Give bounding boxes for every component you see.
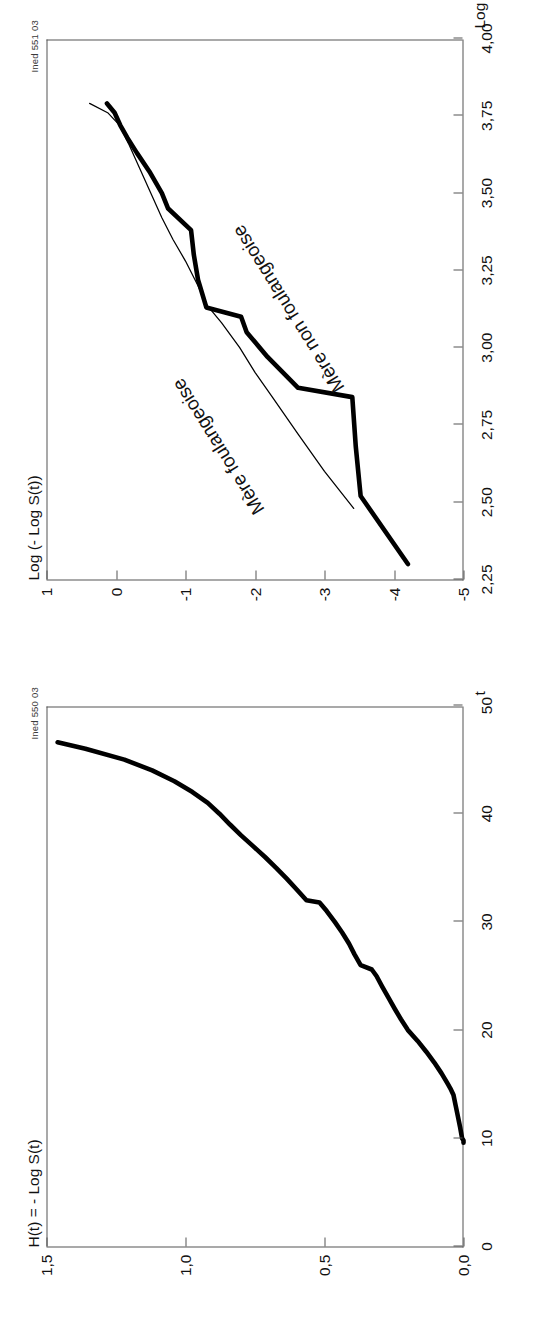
x-tick: [453, 812, 462, 813]
y-tick-label: -1: [176, 587, 194, 625]
panel-a-x-axis-title: t: [470, 691, 488, 695]
x-tick: [453, 114, 462, 115]
x-tick: [453, 346, 462, 347]
y-tick: [463, 570, 464, 579]
y-tick: [185, 570, 186, 579]
y-tick-label: 0: [107, 587, 125, 625]
panel-a-source-note: Ined 550 03: [28, 687, 39, 739]
y-tick: [46, 1237, 47, 1246]
y-tick: [46, 570, 47, 579]
y-tick: [185, 1237, 186, 1246]
x-tick-label: 2,25: [477, 564, 495, 594]
y-tick-label: -2: [246, 587, 264, 625]
x-tick-label: 3,75: [477, 100, 495, 130]
series-thick: [57, 742, 463, 1142]
y-tick-label: 1,0: [176, 1254, 194, 1292]
y-tick-label: -4: [385, 587, 403, 625]
panel-a-y-axis-title: H(t) = - Log S(t): [24, 1139, 42, 1247]
x-tick-label: 40: [477, 805, 495, 822]
x-tick-label: 0: [477, 1242, 495, 1251]
x-tick-label: 50: [477, 696, 495, 713]
y-tick: [324, 1237, 325, 1246]
x-tick-label: 4,00: [477, 23, 495, 53]
figure-row: H(t) = - Log S(t) t Ined 550 03 01020304…: [0, 0, 549, 1335]
rotated-figure-wrapper: H(t) = - Log S(t) t Ined 550 03 01020304…: [0, 0, 549, 1335]
x-tick: [453, 501, 462, 502]
y-tick-label: 1,5: [37, 1254, 55, 1292]
x-tick: [453, 1137, 462, 1138]
y-tick-label: 0,0: [454, 1254, 472, 1292]
panel-log-log: Log (- Log S(t)) Log (t) Ined 551 03 2,2…: [0, 1, 549, 668]
x-tick-label: 3,50: [477, 177, 495, 207]
panel-b-source-note: Ined 551 03: [28, 20, 39, 72]
x-tick-label: 10: [477, 1129, 495, 1146]
y-tick-label: -3: [315, 587, 333, 625]
x-tick: [453, 1245, 462, 1246]
x-tick: [453, 578, 462, 579]
y-tick: [394, 570, 395, 579]
x-tick-label: 3,00: [477, 332, 495, 362]
y-tick: [116, 570, 117, 579]
x-tick: [453, 920, 462, 921]
panel-a-plot-area: 010203040500,00,51,01,5: [46, 706, 463, 1247]
panel-a-curves: [46, 705, 463, 1246]
y-tick: [463, 1237, 464, 1246]
x-tick: [453, 269, 462, 270]
x-tick: [453, 37, 462, 38]
y-tick: [255, 570, 256, 579]
panel-b-y-axis-title: Log (- Log S(t)): [24, 475, 42, 580]
y-tick-label: 0,5: [315, 1254, 333, 1292]
x-tick-label: 20: [477, 1021, 495, 1038]
x-tick-label: 2,50: [477, 487, 495, 517]
x-tick-label: 3,25: [477, 255, 495, 285]
y-tick: [324, 570, 325, 579]
x-tick: [453, 1029, 462, 1030]
x-tick-label: 2,75: [477, 409, 495, 439]
x-tick-label: 30: [477, 913, 495, 930]
x-tick: [453, 192, 462, 193]
y-tick-label: -5: [454, 587, 472, 625]
panel-cumulative-hazard: H(t) = - Log S(t) t Ined 550 03 01020304…: [0, 668, 549, 1335]
x-tick: [453, 423, 462, 424]
y-tick-label: 1: [37, 587, 55, 625]
x-tick: [453, 704, 462, 705]
